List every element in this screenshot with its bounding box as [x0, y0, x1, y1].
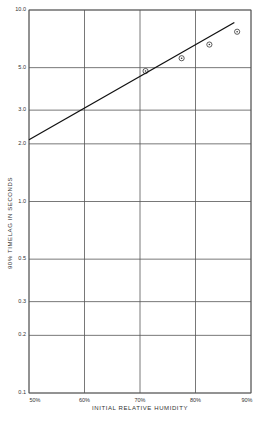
y-tick-label: 0.1: [2, 389, 26, 395]
x-tick-label: 60%: [73, 397, 97, 403]
x-tick-label: 80%: [184, 397, 208, 403]
y-tick-label: 0.5: [2, 255, 26, 261]
x-tick-label: 90%: [235, 397, 259, 403]
chart-plot-area: [0, 0, 263, 421]
x-tick-label: 70%: [128, 397, 152, 403]
y-tick-label: 1.0: [2, 198, 26, 204]
y-tick-label: 10.0: [2, 6, 26, 12]
y-tick-label: 0.3: [2, 298, 26, 304]
y-tick-label: 5.0: [2, 64, 26, 70]
y-tick-label: 2.0: [2, 140, 26, 146]
x-tick-label: 50%: [23, 397, 47, 403]
y-axis-label: 90% TIMELAG IN SECONDS: [7, 158, 13, 288]
x-axis-label: INITIAL RELATIVE HUMIDITY: [29, 405, 251, 411]
y-tick-label: 3.0: [2, 106, 26, 112]
grid-lines: [29, 10, 251, 393]
data-series: [29, 23, 240, 140]
y-tick-label: 0.2: [2, 331, 26, 337]
